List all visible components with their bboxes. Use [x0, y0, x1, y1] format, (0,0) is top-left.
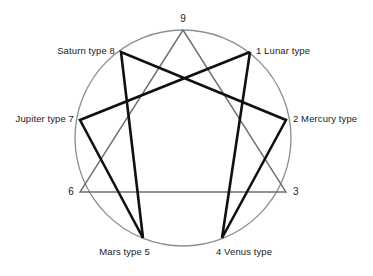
enneagram-canvas: [0, 0, 373, 276]
enneagram-point-label-2: 2 Mercury type: [293, 113, 357, 124]
enneagram-point-label-4: 4 Venus type: [216, 246, 272, 257]
enneagram-diagram: 1 Lunar type2 Mercury type34 Venus typeM…: [0, 0, 373, 276]
enneagram-point-label-9: 9: [0, 13, 366, 24]
enneagram-point-label-3: 3: [293, 186, 299, 197]
enneagram-point-label-1: 1 Lunar type: [256, 45, 310, 56]
enneagram-outer-circle: [75, 30, 291, 246]
enneagram-point-label-5: Mars type 5: [0, 246, 150, 257]
enneagram-hexad-142857: [80, 52, 286, 238]
enneagram-point-label-8: Saturn type 8: [0, 45, 115, 56]
enneagram-point-label-7: Jupiter type 7: [0, 113, 74, 124]
enneagram-point-label-6: 6: [0, 186, 74, 197]
